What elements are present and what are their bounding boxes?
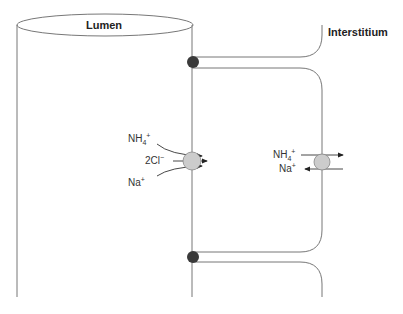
apical-ion-2cl: 2Cl− xyxy=(145,154,164,166)
basolateral-ion-nh4: NH4+ xyxy=(273,148,295,162)
basolateral-ion-na: Na+ xyxy=(279,162,296,174)
apical-ion-nh4: NH4+ xyxy=(128,132,150,146)
lumen-tube xyxy=(17,14,193,297)
main-cell-outline xyxy=(192,68,322,252)
tight-junction-top xyxy=(187,56,199,68)
epithelium-diagram: Lumen Interstitium NH4+ 2Cl− Na+ NH4+ Na… xyxy=(0,0,403,314)
apical-ion-na: Na+ xyxy=(128,176,145,188)
upper-cell-edge xyxy=(192,25,322,57)
interstitium-label: Interstitium xyxy=(328,26,388,38)
basolateral-transporter xyxy=(301,154,343,170)
apical-transporter xyxy=(157,144,207,176)
tight-junction-bottom xyxy=(187,251,199,263)
lower-cell-edge xyxy=(192,262,322,297)
lumen-label: Lumen xyxy=(86,19,122,31)
